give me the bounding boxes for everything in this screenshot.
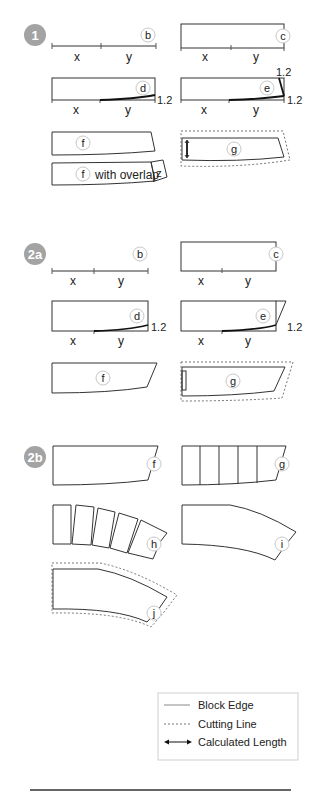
step-letter: e — [260, 310, 266, 322]
y-label: y — [245, 274, 251, 288]
section-badge-label: 2a — [28, 247, 43, 262]
step-e: x y 1.2 1.2 e — [181, 66, 302, 117]
y-label: y — [253, 50, 259, 64]
z-label: z — [156, 167, 162, 179]
measure-label: 1.2 — [287, 94, 302, 106]
step-f: f — [53, 446, 161, 485]
step-letter: i — [281, 538, 283, 550]
x-label: x — [70, 334, 76, 348]
step-letter: g — [231, 143, 237, 155]
section-1: 1 x y b x y c — [24, 24, 302, 185]
y-label: y — [118, 274, 124, 288]
x-label: x — [198, 274, 204, 288]
section-2b: 2b f g h i — [24, 446, 296, 627]
step-h: h — [53, 505, 167, 559]
step-c: x y c — [181, 24, 290, 64]
step-i: i — [182, 505, 296, 560]
section-2a: 2a x y b x y c x y 1.2 d — [24, 242, 302, 401]
measure-label: 1.2 — [276, 66, 291, 78]
step-letter: c — [280, 30, 286, 42]
x-label: x — [73, 103, 79, 117]
step-letter: g — [230, 375, 236, 387]
step-letter: d — [140, 82, 146, 94]
step-letter: j — [152, 607, 155, 619]
y-label: y — [118, 334, 124, 348]
step-f: f — [52, 132, 155, 155]
x-label: x — [198, 334, 204, 348]
step-c: x y c — [181, 242, 283, 288]
legend-label: Calculated Length — [198, 736, 287, 748]
x-label: x — [74, 50, 80, 64]
step-d: x y 1.2 d — [52, 78, 172, 117]
step-letter: h — [151, 538, 157, 550]
y-label: y — [245, 334, 251, 348]
x-label: x — [201, 103, 207, 117]
legend-label: Block Edge — [198, 699, 254, 711]
y-label: y — [125, 103, 131, 117]
step-letter: d — [134, 310, 140, 322]
step-f-overlap: f with overlap z — [52, 160, 167, 185]
step-letter: e — [264, 82, 270, 94]
section-badge-label: 2b — [27, 450, 42, 465]
step-d: x y 1.2 d — [52, 301, 166, 348]
x-label: x — [70, 274, 76, 288]
step-b: x y b — [52, 28, 156, 64]
step-letter: c — [273, 248, 279, 260]
section-badge-label: 1 — [31, 28, 38, 43]
measure-label: 1.2 — [151, 321, 166, 333]
step-g: g — [181, 131, 290, 166]
legend-label: Cutting Line — [198, 718, 257, 730]
y-label: y — [253, 103, 259, 117]
step-letter: g — [279, 458, 285, 470]
x-label: x — [202, 50, 208, 64]
step-letter: b — [145, 29, 151, 41]
measure-label: 1.2 — [157, 94, 172, 106]
step-j: j — [52, 563, 177, 627]
measure-label: 1.2 — [287, 321, 302, 333]
step-b: x y b — [52, 247, 148, 288]
step-g: g — [182, 446, 289, 485]
step-g: g — [181, 362, 293, 401]
step-letter: b — [137, 248, 143, 260]
y-label: y — [126, 50, 132, 64]
step-f: f — [52, 363, 157, 393]
legend: Block Edge Cutting Line Calculated Lengt… — [158, 693, 298, 760]
step-e: x y 1.2 e — [181, 301, 302, 348]
diagram-canvas: 1 x y b x y c — [0, 0, 325, 791]
with-overlap-label: with overlap — [94, 168, 159, 182]
